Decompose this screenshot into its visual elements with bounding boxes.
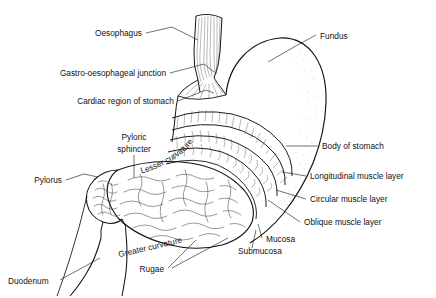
diagram-canvas: Oesophagus Gastro-oesophageal junction C… — [0, 0, 436, 298]
leader-longitudinal — [282, 172, 306, 176]
leader-circular — [276, 190, 306, 199]
oesophagus-shape — [172, 14, 226, 142]
label-oesophagus: Oesophagus — [95, 28, 142, 38]
label-lesser-curvature: Lesser curvature — [139, 136, 195, 175]
stomach-body-outline — [226, 38, 326, 243]
label-mucosa: Mucosa — [266, 234, 295, 244]
label-body-of-stomach: Body of stomach — [322, 141, 384, 151]
leader-oesophagus — [146, 27, 198, 40]
label-pyloric-sphincter-line1: Pyloric — [122, 132, 147, 142]
label-fundus: Fundus — [320, 31, 348, 41]
stomach-diagram: Oesophagus Gastro-oesophageal junction C… — [0, 0, 436, 298]
leader-oblique — [268, 200, 300, 222]
label-pyloric-sphincter-line2: sphincter — [117, 144, 151, 154]
label-pylorus: Pylorus — [34, 175, 62, 185]
label-duodenum: Duodenum — [8, 276, 49, 286]
duodenum-shape — [57, 196, 127, 296]
label-submucosa: Submucosa — [238, 246, 282, 256]
muscle-layers — [166, 110, 292, 219]
serosa-stipple — [264, 50, 317, 235]
label-rugae: Rugae — [140, 264, 165, 274]
label-gastro-oesophageal-junction: Gastro-oesophageal junction — [60, 68, 166, 78]
label-longitudinal-muscle-layer: Longitudinal muscle layer — [310, 171, 404, 181]
label-circular-muscle-layer: Circular muscle layer — [310, 194, 388, 204]
label-oblique-muscle-layer: Oblique muscle layer — [304, 217, 382, 227]
leader-pylorus — [66, 174, 98, 180]
label-cardiac-region: Cardiac region of stomach — [77, 96, 174, 106]
